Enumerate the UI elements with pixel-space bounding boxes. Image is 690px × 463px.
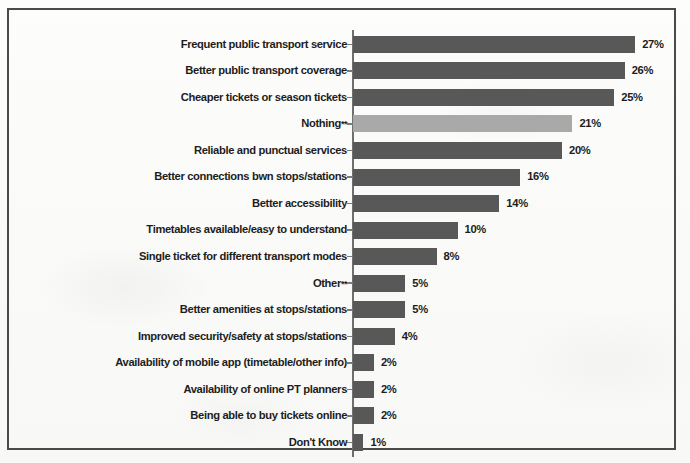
bar-row: Cheaper tickets or season tickets25%: [0, 84, 690, 111]
category-label: Being able to buy tickets online: [47, 410, 347, 421]
bar-value-label: 4%: [402, 331, 418, 342]
bar: [353, 89, 614, 106]
bar-value-label: 2%: [381, 357, 397, 368]
bar-row: Don't Know1%: [0, 429, 690, 456]
category-label: Availability of online PT planners: [47, 384, 347, 395]
bar-value-label: 2%: [381, 410, 397, 421]
category-label: Better accessibility: [47, 198, 347, 209]
bar-row: Being able to buy tickets online2%: [0, 403, 690, 430]
bar: [353, 328, 395, 345]
bar-row: Better amenities at stops/stations5%: [0, 297, 690, 324]
bar-row: Better connections bwn stops/stations16%: [0, 164, 690, 191]
bar: [353, 222, 458, 239]
bar-row: Availability of mobile app (timetable/ot…: [0, 350, 690, 377]
bar: [353, 275, 405, 292]
bar-row: Better accessibility14%: [0, 190, 690, 217]
category-label: Improved security/safety at stops/statio…: [47, 331, 347, 342]
bar: [353, 407, 374, 424]
bar-value-label: 5%: [412, 278, 428, 289]
bar-row: Improved security/safety at stops/statio…: [0, 323, 690, 350]
bar-row: Reliable and punctual services20%: [0, 137, 690, 164]
category-label: Better amenities at stops/stations: [47, 304, 347, 315]
category-label: Reliable and punctual services: [47, 145, 347, 156]
category-label: Availability of mobile app (timetable/ot…: [47, 357, 347, 368]
chart-figure: Frequent public transport service27%Bett…: [0, 0, 690, 463]
bar-value-label: 16%: [527, 171, 549, 182]
bar: [353, 142, 562, 159]
bar: [353, 62, 625, 79]
category-label: Cheaper tickets or season tickets: [47, 92, 347, 103]
category-label: Frequent public transport service: [47, 39, 347, 50]
category-label: Timetables available/easy to understand: [47, 224, 347, 235]
category-label: Single ticket for different transport mo…: [47, 251, 347, 262]
bar-row: Nothing**21%: [0, 111, 690, 138]
category-label: Better public transport coverage: [47, 65, 347, 76]
bar: [353, 381, 374, 398]
bar-value-label: 2%: [381, 384, 397, 395]
category-label: Other**: [47, 278, 347, 289]
bar-row: Timetables available/easy to understand1…: [0, 217, 690, 244]
bar-chart-plot-area: Frequent public transport service27%Bett…: [0, 0, 690, 463]
bar-value-label: 8%: [444, 251, 460, 262]
bar: [353, 301, 405, 318]
bar: [353, 169, 520, 186]
category-label: Better connections bwn stops/stations: [47, 171, 347, 182]
bar: [353, 248, 437, 265]
bar-value-label: 20%: [569, 145, 591, 156]
bar-value-label: 10%: [465, 224, 487, 235]
bar: [353, 195, 499, 212]
bar-value-label: 21%: [579, 118, 601, 129]
bar-row: Availability of online PT planners2%: [0, 376, 690, 403]
bar-value-label: 25%: [621, 92, 643, 103]
bar-value-label: 26%: [632, 65, 654, 76]
bar-row: Single ticket for different transport mo…: [0, 243, 690, 270]
bar: [353, 36, 635, 53]
bar: [353, 115, 572, 132]
category-label: Don't Know: [47, 437, 347, 448]
bar-row: Better public transport coverage26%: [0, 58, 690, 85]
bar-value-label: 14%: [506, 198, 528, 209]
bar-row: Frequent public transport service27%: [0, 31, 690, 58]
category-label: Nothing**: [47, 118, 347, 129]
bar-row: Other**5%: [0, 270, 690, 297]
bar-value-label: 1%: [370, 437, 386, 448]
bar-value-label: 27%: [642, 39, 664, 50]
bar: [353, 354, 374, 371]
bar: [353, 434, 363, 451]
bar-value-label: 5%: [412, 304, 428, 315]
